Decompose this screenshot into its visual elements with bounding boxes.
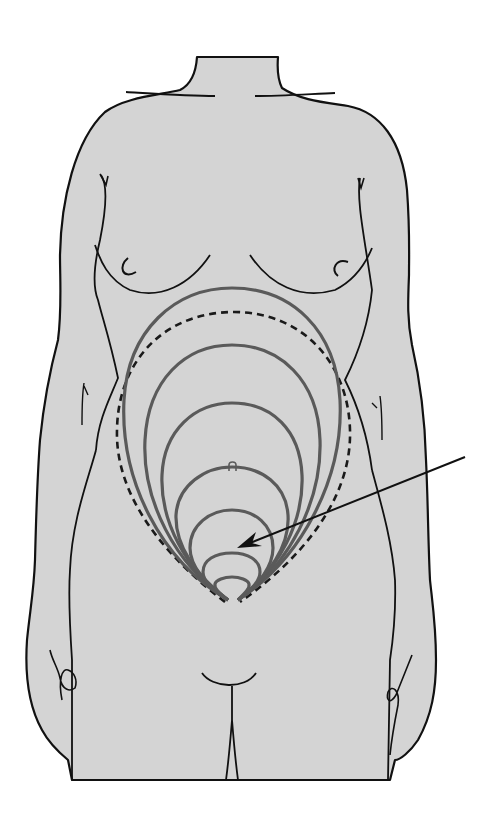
body-silhouette [26, 57, 436, 780]
pregnancy-fundal-height-diagram [0, 0, 495, 819]
